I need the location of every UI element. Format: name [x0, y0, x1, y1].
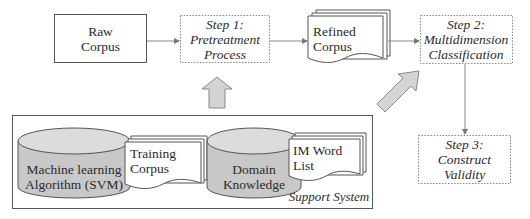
raw-corpus-label: Raw Corpus	[54, 24, 147, 54]
refined-corpus-label: Refined Corpus	[313, 24, 383, 54]
training-corpus-label: Training Corpus	[130, 146, 202, 176]
machine-learning-label: Machine learning Algorithm (SVM)	[16, 162, 132, 192]
support-to-step1-arrow	[202, 77, 232, 108]
support-system-label: Support System	[288, 189, 370, 204]
step2-label: Step 2: Multidimension Classification	[418, 17, 514, 62]
step1-label: Step 1: Pretreatment Process	[180, 17, 270, 62]
support-to-step2-arrow	[377, 71, 419, 112]
step3-label: Step 3: Construct Validity	[418, 137, 511, 182]
domain-knowledge-label: Domain Knowledge	[205, 162, 303, 192]
im-word-list-label: IM Word List	[293, 143, 363, 173]
